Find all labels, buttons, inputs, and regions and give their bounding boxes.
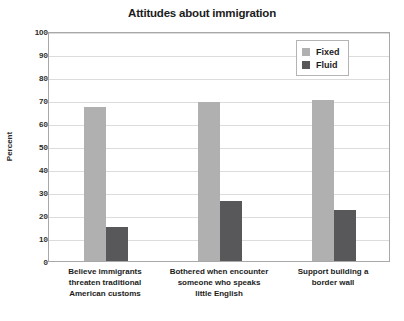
- gridline: [49, 79, 389, 80]
- legend-swatch-icon: [302, 61, 310, 69]
- bar-fluid-3: [334, 210, 356, 261]
- x-axis-label-2: Bothered when encountersomeone who speak…: [165, 266, 273, 299]
- bar-fixed-3: [312, 100, 334, 261]
- x-axis-label-line: little English: [165, 288, 273, 299]
- x-axis-label-line: Believe immigrants: [51, 266, 159, 277]
- y-axis-title: Percent: [5, 107, 14, 187]
- bar-fixed-2: [198, 102, 220, 261]
- x-axis-label-3: Support building aborder wall: [279, 266, 387, 288]
- x-axis-label-line: border wall: [279, 277, 387, 288]
- x-axis-label-line: someone who speaks: [165, 277, 273, 288]
- legend-label: Fixed: [316, 47, 340, 57]
- x-axis-label-1: Believe immigrantsthreaten traditionalAm…: [51, 266, 159, 299]
- gridline: [49, 33, 389, 34]
- y-tick-mark: [44, 262, 48, 263]
- chart-legend: FixedFluid: [296, 40, 349, 76]
- x-axis-category-labels: Believe immigrantsthreaten traditionalAm…: [48, 266, 390, 318]
- bar-fluid-1: [106, 227, 128, 262]
- immigration-attitudes-chart: Attitudes about immigration Percent 0102…: [0, 0, 404, 321]
- legend-item-fluid[interactable]: Fluid: [302, 58, 340, 71]
- bar-fluid-2: [220, 201, 242, 261]
- x-axis-label-line: Support building a: [279, 266, 387, 277]
- bar-fixed-1: [84, 107, 106, 261]
- legend-label: Fluid: [316, 60, 338, 70]
- chart-title: Attitudes about immigration: [0, 7, 404, 19]
- legend-item-fixed[interactable]: Fixed: [302, 45, 340, 58]
- x-axis-label-line: Bothered when encounter: [165, 266, 273, 277]
- x-axis-label-line: threaten traditional: [51, 277, 159, 288]
- x-axis-label-line: American customs: [51, 288, 159, 299]
- y-axis: Percent 0102030405060708090100: [0, 32, 48, 262]
- legend-swatch-icon: [302, 48, 310, 56]
